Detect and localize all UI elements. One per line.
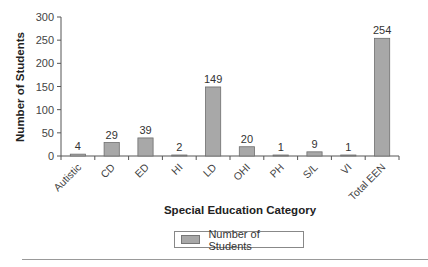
data-label: 2 xyxy=(176,141,182,153)
bar-s-l xyxy=(307,152,322,156)
bar-cd xyxy=(104,143,119,156)
category-label: OHI xyxy=(231,161,253,183)
category-label: PH xyxy=(267,161,286,180)
bar-ed xyxy=(138,138,153,156)
legend-swatch-icon xyxy=(181,235,200,244)
data-label: 29 xyxy=(106,129,118,141)
category-label: VI xyxy=(338,161,354,177)
bars xyxy=(70,38,389,156)
x-axis xyxy=(61,156,399,160)
data-labels: 42939214920191254 xyxy=(75,24,391,153)
bar-vi xyxy=(341,155,356,156)
y-tick-label: 0 xyxy=(48,150,54,162)
y-tick-label: 100 xyxy=(36,104,54,116)
bar-ld xyxy=(205,87,220,156)
bar-total-een xyxy=(374,38,389,156)
category-labels: AutisticCDEDHILDOHIPHS/LVITotal EEN xyxy=(51,161,388,203)
data-label: 149 xyxy=(204,73,222,85)
y-tick-label: 150 xyxy=(36,81,54,93)
y-tick-label: 300 xyxy=(36,11,54,23)
category-label: CD xyxy=(98,161,118,181)
divider xyxy=(22,259,428,260)
data-label: 9 xyxy=(311,138,317,150)
category-label: S/L xyxy=(300,161,320,181)
bar-hi xyxy=(172,155,187,156)
bar-autistic xyxy=(70,154,85,156)
y-tick-label: 50 xyxy=(42,127,54,139)
category-label: Total EEN xyxy=(346,161,387,202)
data-label: 1 xyxy=(278,141,284,153)
data-label: 39 xyxy=(139,124,151,136)
y-tick-label: 250 xyxy=(36,34,54,46)
y-axis: 050100150200250300 xyxy=(36,11,61,162)
legend-label: Number of Students xyxy=(208,228,303,252)
category-label: HI xyxy=(169,161,185,177)
data-label: 1 xyxy=(345,141,351,153)
data-label: 254 xyxy=(373,24,391,36)
y-tick-label: 200 xyxy=(36,57,54,69)
y-axis-title: Number of Students xyxy=(14,32,26,142)
data-label: 20 xyxy=(241,133,253,145)
bar-ph xyxy=(273,155,288,156)
category-label: LD xyxy=(201,161,219,179)
category-label: ED xyxy=(132,161,151,180)
category-label: Autistic xyxy=(51,161,83,193)
bar-ohi xyxy=(239,147,254,156)
legend: Number of Students xyxy=(174,231,304,248)
x-axis-title: Special Education Category xyxy=(164,204,317,216)
data-label: 4 xyxy=(75,140,81,152)
